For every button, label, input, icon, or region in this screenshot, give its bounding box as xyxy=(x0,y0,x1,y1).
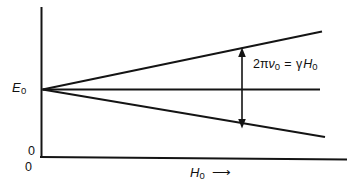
lower-level-line xyxy=(43,90,326,138)
x-axis-label: H0⟶ xyxy=(190,166,230,181)
equation-field-subscript: 0 xyxy=(312,61,317,72)
y-axis-label-symbol: E xyxy=(12,80,21,95)
equation-field-symbol: H xyxy=(303,57,312,71)
energy-level-diagram xyxy=(0,0,359,192)
split-arrow-up xyxy=(238,48,246,90)
equation-pi-symbol: π xyxy=(260,57,269,71)
equation-equals-sign: = xyxy=(284,57,292,71)
equation-gamma-symbol: γ xyxy=(296,57,302,71)
splitting-equation-annotation: 2πν0=γH0 xyxy=(253,58,318,72)
equation-coefficient: 2 xyxy=(253,57,260,71)
y-axis-label-subscript: 0 xyxy=(21,85,26,96)
x-origin-tick-label: 0 xyxy=(25,161,32,174)
x-axis-label-subscript: 0 xyxy=(199,170,204,181)
x-axis-direction-arrow-icon: ⟶ xyxy=(212,165,230,180)
x-axis xyxy=(41,157,346,160)
x-axis-label-symbol: H xyxy=(190,165,199,180)
y-axis-label: E0 xyxy=(12,81,26,96)
figure-root: E0 0 0 H0⟶ 2πν0=γH0 xyxy=(0,0,359,192)
equation-nu-subscript: 0 xyxy=(275,61,280,72)
y-origin-tick-label: 0 xyxy=(28,145,35,158)
